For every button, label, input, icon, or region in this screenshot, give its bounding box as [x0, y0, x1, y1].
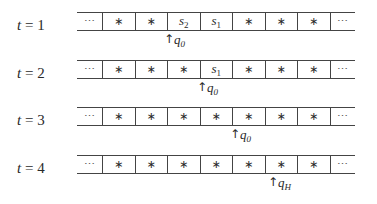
- ellipsis-symbol: ⋯: [84, 110, 96, 123]
- blank-symbol: ∗: [277, 110, 286, 123]
- tape-cell: s1: [200, 13, 233, 30]
- tape-cell: s1: [200, 61, 233, 78]
- state-subscript: 0: [247, 134, 252, 144]
- time-label: t = 4: [17, 159, 45, 177]
- tape-head-indicator: ↑q0: [197, 81, 218, 99]
- blank-symbol: ∗: [244, 15, 253, 28]
- blank-symbol: ∗: [114, 110, 123, 123]
- ellipsis-symbol: ⋯: [84, 63, 96, 76]
- blank-symbol: ∗: [147, 158, 156, 171]
- tape-head-indicator: ↑q0: [164, 33, 185, 51]
- blank-symbol: ∗: [179, 63, 188, 76]
- time-value: 4: [37, 160, 45, 176]
- ellipsis-symbol: ⋯: [337, 15, 349, 28]
- tape: ⋯ ∗ ∗ s2 s1 ∗ ∗ ∗ ⋯: [77, 12, 355, 31]
- time-label: t = 3: [17, 111, 45, 129]
- tape-cell: ∗: [200, 156, 233, 173]
- time-value: 2: [37, 65, 45, 81]
- tape-cell: ∗: [265, 13, 298, 30]
- equals-sign: =: [21, 112, 37, 128]
- tape-cell: ⋯: [77, 156, 102, 173]
- blank-symbol: ∗: [309, 110, 318, 123]
- tape-cell: ⋯: [77, 13, 102, 30]
- state-subscript: H: [285, 182, 292, 192]
- ellipsis-symbol: ⋯: [337, 110, 349, 123]
- blank-symbol: ∗: [114, 63, 123, 76]
- tape: ⋯ ∗ ∗ ∗ ∗ ∗ ∗ ∗ ⋯: [77, 155, 355, 174]
- tape-cell: ⋯: [77, 61, 102, 78]
- equals-sign: =: [21, 65, 37, 81]
- blank-symbol: ∗: [244, 158, 253, 171]
- tape-cell: ∗: [167, 156, 200, 173]
- blank-symbol: ∗: [309, 15, 318, 28]
- machine-state: q0: [207, 80, 218, 95]
- blank-symbol: ∗: [147, 63, 156, 76]
- blank-symbol: ∗: [309, 158, 318, 171]
- tape-cell: ⋯: [330, 108, 356, 125]
- tape-cell: ∗: [297, 156, 330, 173]
- blank-symbol: ∗: [244, 110, 253, 123]
- tape-cell: ∗: [135, 61, 168, 78]
- blank-symbol: ∗: [147, 15, 156, 28]
- time-value: 1: [37, 17, 45, 33]
- blank-symbol: ∗: [309, 63, 318, 76]
- tape-symbol: s1: [211, 13, 221, 30]
- tape: ⋯ ∗ ∗ ∗ s1 ∗ ∗ ∗ ⋯: [77, 60, 355, 79]
- time-value: 3: [37, 112, 45, 128]
- tape-cell: ∗: [297, 13, 330, 30]
- tape-cell: ⋯: [77, 108, 102, 125]
- blank-symbol: ∗: [114, 15, 123, 28]
- blank-symbol: ∗: [212, 158, 221, 171]
- equals-sign: =: [21, 17, 37, 33]
- tape-cell: ∗: [135, 156, 168, 173]
- tape-cell: ∗: [297, 108, 330, 125]
- symbol-subscript: 1: [217, 20, 222, 30]
- up-arrow-icon: ↑: [164, 32, 174, 46]
- tape-cell: ∗: [102, 108, 135, 125]
- tape-cell: ∗: [232, 156, 265, 173]
- blank-symbol: ∗: [147, 110, 156, 123]
- tape-cell: ⋯: [330, 61, 356, 78]
- blank-symbol: ∗: [244, 63, 253, 76]
- tape: ⋯ ∗ ∗ ∗ ∗ ∗ ∗ ∗ ⋯: [77, 107, 355, 126]
- tape-cell: ⋯: [330, 13, 356, 30]
- tape-cell: ∗: [102, 61, 135, 78]
- tape-cell: ∗: [102, 13, 135, 30]
- tape-symbol: s1: [211, 61, 221, 78]
- tape-cell: ∗: [167, 108, 200, 125]
- tape-symbol: s2: [179, 13, 189, 30]
- tape-cell: ∗: [232, 13, 265, 30]
- symbol-subscript: 1: [217, 68, 222, 78]
- blank-symbol: ∗: [179, 158, 188, 171]
- blank-symbol: ∗: [277, 158, 286, 171]
- time-label: t = 1: [17, 16, 45, 34]
- time-label: t = 2: [17, 64, 45, 82]
- ellipsis-symbol: ⋯: [84, 15, 96, 28]
- blank-symbol: ∗: [212, 110, 221, 123]
- up-arrow-icon: ↑: [197, 80, 207, 94]
- ellipsis-symbol: ⋯: [337, 158, 349, 171]
- up-arrow-icon: ↑: [268, 175, 278, 189]
- state-subscript: 0: [181, 39, 186, 49]
- blank-symbol: ∗: [277, 63, 286, 76]
- ellipsis-symbol: ⋯: [84, 158, 96, 171]
- tape-row-t1: t = 1 ⋯ ∗ ∗ s2 s1 ∗ ∗ ∗ ⋯ ↑q0: [0, 12, 377, 60]
- machine-state: q0: [174, 32, 185, 47]
- tape-head-indicator: ↑q0: [230, 128, 251, 146]
- tape-cell: ∗: [232, 61, 265, 78]
- tape-cell: ∗: [265, 156, 298, 173]
- tape-cell: ∗: [232, 108, 265, 125]
- tape-cell: ∗: [297, 61, 330, 78]
- blank-symbol: ∗: [114, 158, 123, 171]
- machine-state: qH: [278, 175, 291, 190]
- tape-cell: ∗: [135, 108, 168, 125]
- blank-symbol: ∗: [277, 15, 286, 28]
- tape-cell: ∗: [135, 13, 168, 30]
- equals-sign: =: [21, 160, 37, 176]
- tape-head-indicator: ↑qH: [268, 176, 291, 194]
- tape-cell: ∗: [102, 156, 135, 173]
- tape-cell: ∗: [167, 61, 200, 78]
- tape-cell: ∗: [265, 108, 298, 125]
- symbol-subscript: 2: [184, 20, 189, 30]
- state-subscript: 0: [214, 87, 219, 97]
